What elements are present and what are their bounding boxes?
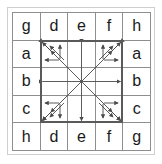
grid-cell-r4c5: c (123, 96, 151, 124)
grid-cell-r2c5: a (123, 41, 151, 69)
grid-cell-r3c2 (41, 68, 69, 96)
grid-cell-r4c4 (96, 96, 124, 124)
grid-cell-r5c3: e (68, 123, 96, 151)
grid-cell-r5c1: h (13, 123, 41, 151)
grid-cell-r5c5: g (123, 123, 151, 151)
grid-cell-r2c2 (41, 41, 69, 69)
grid-cell-r1c1: g (13, 13, 41, 41)
grid-cell-r4c1: c (13, 96, 41, 124)
grid-cell-r2c4 (96, 41, 124, 69)
grid-cell-r3c5: b (123, 68, 151, 96)
grid-cell-r3c4 (96, 68, 124, 96)
grid-cell-r5c4: f (96, 123, 124, 151)
grid-cell-r1c3: e (68, 13, 96, 41)
grid-cell-r1c4: f (96, 13, 124, 41)
grid-cell-r4c3 (68, 96, 96, 124)
grid-cell-r5c2: d (41, 123, 69, 151)
symmetry-grid-figure: g d e f h a a b b c c h d e f g (0, 0, 162, 164)
grid-cell-r3c1: b (13, 68, 41, 96)
grid-cell-r1c2: d (41, 13, 69, 41)
grid-cell-r1c5: h (123, 13, 151, 41)
grid-cell-r2c3 (68, 41, 96, 69)
letter-grid: g d e f h a a b b c c h d e f g (12, 12, 151, 151)
grid-cell-r4c2 (41, 96, 69, 124)
grid-cell-r2c1: a (13, 41, 41, 69)
grid-cell-r3c3 (68, 68, 96, 96)
